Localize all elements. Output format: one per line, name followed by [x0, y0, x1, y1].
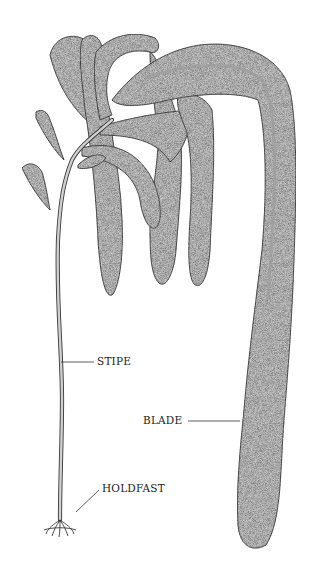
holdfast-leader [76, 490, 99, 512]
label-stipe: STIPE [97, 355, 131, 367]
leaflet-lower [22, 164, 50, 210]
seaweed-illustration [0, 0, 332, 565]
blade-second-tall [177, 94, 213, 286]
leaflet-upper [36, 110, 64, 160]
label-holdfast: HOLDFAST [102, 482, 165, 494]
label-blade: BLADE [143, 414, 182, 426]
holdfast [44, 520, 76, 537]
